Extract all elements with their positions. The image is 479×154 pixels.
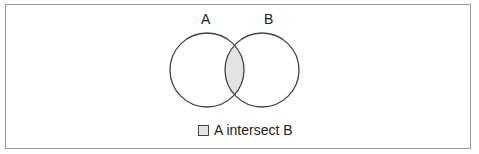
legend-label: A intersect B — [214, 122, 293, 138]
legend-swatch-icon — [198, 125, 209, 136]
legend: A intersect B — [198, 122, 293, 138]
set-a-label: A — [201, 11, 210, 27]
set-b-label: B — [264, 11, 273, 27]
